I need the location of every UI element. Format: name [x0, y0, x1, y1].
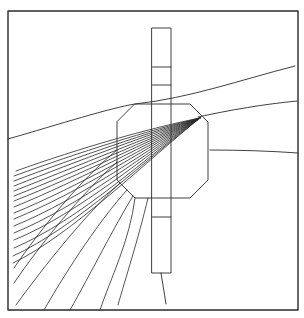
fan-line — [44, 190, 127, 310]
curve-line — [198, 101, 297, 117]
curve-line — [210, 150, 298, 153]
diagram-canvas — [0, 0, 304, 318]
fan-line — [14, 118, 200, 201]
fan-line — [14, 118, 200, 213]
fan-line — [14, 150, 117, 268]
octagon-shape — [117, 104, 208, 198]
curve-lines-group — [8, 66, 298, 153]
frame-border — [8, 11, 298, 310]
column-tail-line — [161, 273, 166, 304]
fan-line — [14, 118, 200, 196]
fan-lines-group — [13, 118, 200, 310]
curve-line — [8, 66, 295, 139]
line-diagram — [0, 0, 304, 318]
fan-line — [100, 198, 135, 310]
fan-line — [13, 118, 200, 256]
fan-line — [14, 118, 200, 248]
